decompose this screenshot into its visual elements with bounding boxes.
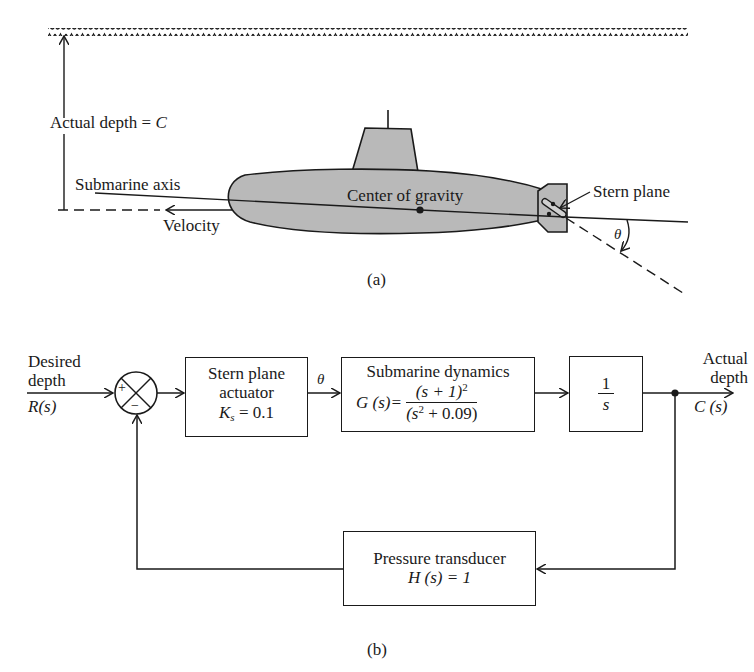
velocity-label: Velocity xyxy=(163,216,220,235)
theta-signal-label: θ xyxy=(317,370,324,389)
actual-depth-output-label: Actual depth xyxy=(688,349,748,387)
stern-plane-label: Stern plane xyxy=(593,182,670,201)
actuator-gain: Ks = 0.1 xyxy=(186,403,307,422)
center-of-gravity-label: Center of gravity xyxy=(347,186,463,205)
figure-b-caption: (b) xyxy=(367,640,387,659)
actual-depth-label: Actual depth = C xyxy=(50,113,167,132)
center-of-gravity-dot xyxy=(416,206,423,213)
theta-angle-arc xyxy=(621,220,629,251)
minus-sign: − xyxy=(131,396,139,415)
submarine-axis-label: Submarine axis xyxy=(75,175,180,194)
plus-sign: + xyxy=(118,378,126,397)
transfer-function: G (s)= (s + 1)2 (s2 + 0.09) xyxy=(356,382,477,423)
input-signal-label: R(s) xyxy=(28,397,56,416)
theta-label: θ xyxy=(614,225,621,244)
water-surface xyxy=(48,28,688,36)
desired-depth-label: Desired depth xyxy=(28,352,81,390)
output-signal-label: C (s) xyxy=(694,397,728,416)
figure-a-caption: (a) xyxy=(367,270,386,289)
feedback-block: Pressure transducer H (s) = 1 xyxy=(343,531,536,606)
integrator-block: 1 s xyxy=(569,356,643,432)
actuator-block: Stern plane actuator Ks = 0.1 xyxy=(185,357,308,437)
deflection-dashed-line xyxy=(566,218,683,293)
dynamics-block: Submarine dynamics G (s)= (s + 1)2 (s2 +… xyxy=(341,357,535,432)
conning-tower xyxy=(352,110,418,172)
